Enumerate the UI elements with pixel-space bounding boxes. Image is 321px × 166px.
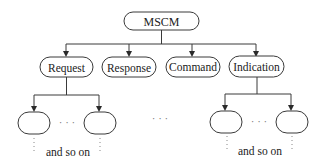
arrow-head-icon [222,105,228,111]
indication-subtree: · · · and so on [210,77,308,157]
request-subtree: · · · and so on [18,77,116,158]
node-indication: Indication [229,56,284,77]
node-response: Response [102,57,156,77]
node-response-label: Response [107,62,151,75]
indication-leaf-ellipsis: · · · [251,115,268,127]
node-indication-label: Indication [233,61,280,73]
request-leaf-ellipsis: · · · [59,116,76,128]
middle-ellipsis: · · · [152,112,169,124]
node-request-label: Request [48,62,86,75]
indication-continuation-note: and so on [238,145,282,157]
node-command-label: Command [169,61,217,73]
arrow-head-icon [31,106,37,112]
request-continuation-note: and so on [46,146,90,158]
arrow-head-icon [288,105,294,111]
indication-leaf-node-1 [210,111,242,133]
arrow-head-icon [126,51,132,57]
mscm-hierarchy-diagram: MSCM Request Response Command Indication [0,0,321,166]
node-request: Request [40,57,93,77]
indication-leaf-node-2 [276,111,308,133]
root-node: MSCM [124,12,199,30]
root-node-label: MSCM [143,15,179,29]
arrow-head-icon [63,51,69,57]
arrow-head-icon [96,106,102,112]
node-command: Command [166,57,220,77]
root-child-arrows [63,44,259,57]
request-leaf-node-1 [18,112,50,134]
arrow-head-icon [189,51,195,57]
request-leaf-node-2 [84,112,116,134]
